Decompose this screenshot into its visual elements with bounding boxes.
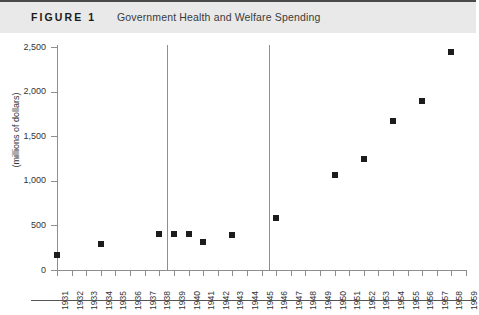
- x-tick-mark: [364, 271, 365, 276]
- x-tick-mark: [57, 271, 58, 276]
- data-point: [332, 172, 338, 178]
- x-tick-mark: [189, 271, 190, 276]
- data-point: [273, 215, 279, 221]
- y-tick-label: 1,000: [0, 176, 46, 185]
- x-tick-mark: [262, 271, 263, 276]
- x-tick-mark: [393, 271, 394, 276]
- x-tick-mark: [159, 271, 160, 276]
- data-point: [171, 231, 177, 237]
- data-point: [54, 252, 60, 258]
- x-tick-mark: [466, 271, 467, 276]
- y-tick-label: 500: [0, 221, 46, 230]
- x-tick-mark: [349, 271, 350, 276]
- x-tick-mark: [72, 271, 73, 276]
- x-tick-mark: [101, 271, 102, 276]
- x-tick-mark: [232, 271, 233, 276]
- y-tick-mark: [51, 181, 57, 182]
- data-point: [448, 49, 454, 55]
- y-tick-label: 0: [0, 266, 46, 275]
- figure-number-label: FIGURE 1: [31, 11, 96, 23]
- x-tick-mark: [247, 271, 248, 276]
- x-tick-mark: [203, 271, 204, 276]
- x-tick-mark: [130, 271, 131, 276]
- y-tick-label: 2,000: [0, 87, 46, 96]
- data-point: [419, 98, 425, 104]
- x-tick-mark: [276, 271, 277, 276]
- y-tick-mark: [51, 47, 57, 48]
- data-point: [186, 231, 192, 237]
- x-tick-mark: [437, 271, 438, 276]
- x-tick-mark: [422, 271, 423, 276]
- x-tick-mark: [86, 271, 87, 276]
- y-tick-label: 1,500: [0, 132, 46, 141]
- y-axis-line: [57, 45, 58, 272]
- x-tick-mark: [291, 271, 292, 276]
- data-point: [156, 231, 162, 237]
- x-tick-mark: [335, 271, 336, 276]
- data-point: [390, 118, 396, 124]
- figure-bottom-rule: [31, 300, 476, 301]
- x-tick-mark: [145, 271, 146, 276]
- x-tick-mark: [378, 271, 379, 276]
- figure-header-band: FIGURE 1 Government Health and Welfare S…: [0, 0, 476, 33]
- x-tick-mark: [305, 271, 306, 276]
- x-tick-mark: [218, 271, 219, 276]
- y-tick-mark: [51, 225, 57, 226]
- x-tick-mark: [174, 271, 175, 276]
- data-point: [98, 241, 104, 247]
- x-tick-mark: [451, 271, 452, 276]
- data-point: [361, 156, 367, 162]
- x-tick-mark: [320, 271, 321, 276]
- vertical-reference-line: [269, 45, 270, 271]
- figure-title: Government Health and Welfare Spending: [117, 11, 320, 23]
- x-tick-mark: [408, 271, 409, 276]
- x-tick-mark: [115, 271, 116, 276]
- vertical-reference-line: [167, 45, 168, 271]
- y-tick-mark: [51, 136, 57, 137]
- y-tick-mark: [51, 92, 57, 93]
- chart-plot-region: (millions of dollars) 05001,0001,5002,00…: [0, 33, 476, 315]
- data-point: [200, 239, 206, 245]
- y-tick-label: 2,500: [0, 43, 46, 52]
- data-point: [229, 232, 235, 238]
